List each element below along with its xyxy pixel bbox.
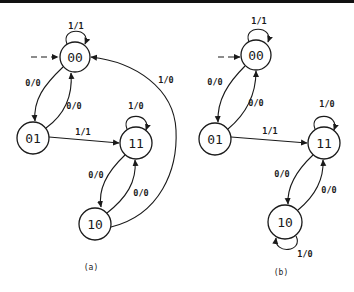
state-11: 11	[308, 127, 340, 159]
edge-00-01	[35, 67, 63, 121]
edge-label-01-11: 1/1	[262, 126, 277, 136]
edge-11-10	[288, 155, 313, 204]
state-label: 11	[128, 136, 144, 151]
state-10: 10	[79, 208, 111, 240]
edge-label-11-11: 1/0	[319, 99, 334, 109]
state-01: 01	[17, 122, 49, 154]
edge-label-01-00: 0/0	[248, 98, 263, 108]
diagram-svg: 00 01 11 10 1/1 0/0 0/0 1/1 1/0 0/0 0/0 …	[0, 0, 354, 292]
edge-label-00-00: 1/1	[68, 21, 83, 31]
edge-label-10-11: 0/0	[321, 185, 336, 195]
diagram-b: 00 01 11 10 1/1 0/0 0/0 1/1 1/0 0/0 0/0 …	[199, 16, 340, 277]
edge-label-11-10: 0/0	[88, 170, 103, 180]
caption-a: (a)	[84, 263, 98, 272]
state-10: 10	[268, 205, 302, 239]
edge-label-10-10: 1/0	[297, 249, 312, 259]
edge-label-00-00: 1/1	[251, 16, 266, 26]
state-00: 00	[241, 40, 271, 70]
edge-label-00-01: 0/0	[207, 77, 222, 87]
caption-b: (b)	[274, 268, 288, 277]
state-diagram-figure: 00 01 11 10 1/1 0/0 0/0 1/1 1/0 0/0 0/0 …	[0, 0, 354, 292]
edge-label-11-10: 0/0	[274, 169, 289, 179]
state-label: 01	[207, 132, 223, 147]
edge-10-11	[107, 160, 135, 213]
state-label: 11	[316, 136, 332, 151]
edge-label-00-01: 0/0	[25, 78, 40, 88]
edge-label-01-11: 1/1	[75, 127, 90, 137]
edge-label-11-11: 1/0	[128, 101, 143, 111]
edge-label-10-00: 1/0	[158, 75, 173, 85]
edge-01-11	[231, 137, 307, 143]
state-label: 01	[25, 131, 41, 146]
state-label: 10	[277, 215, 293, 230]
state-00: 00	[60, 42, 90, 72]
edge-01-11	[49, 137, 119, 143]
diagram-a: 00 01 11 10 1/1 0/0 0/0 1/1 1/0 0/0 0/0 …	[17, 21, 176, 272]
state-label: 00	[248, 48, 264, 63]
state-label: 00	[67, 50, 83, 65]
state-01: 01	[199, 123, 231, 155]
edge-00-01	[218, 66, 245, 122]
edge-label-10-11: 0/0	[133, 188, 148, 198]
state-11: 11	[120, 127, 152, 159]
state-label: 10	[87, 217, 103, 232]
edge-label-01-00: 0/0	[66, 101, 81, 111]
